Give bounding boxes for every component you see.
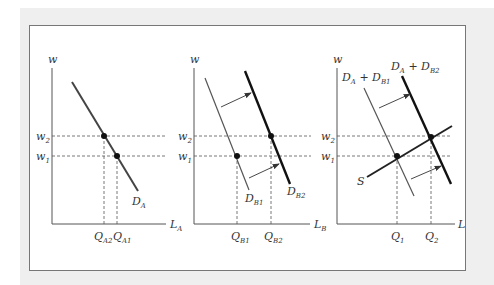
demand-label-total-b2: DA + DB2: [390, 60, 440, 75]
shift-arrow-lower: [249, 164, 279, 178]
demand-label-b1: DB1: [244, 192, 263, 207]
demand-curve-b2: [245, 71, 290, 184]
equilibrium-point-2: [428, 134, 434, 140]
w1-label: w1: [321, 150, 335, 165]
equilibrium-point-b2: [268, 133, 274, 139]
shift-arrow-upper: [221, 93, 251, 107]
demand-curve-total-b1: [364, 88, 414, 196]
demand-label-a: DA: [131, 195, 146, 210]
shift-arrow-upper: [379, 94, 410, 108]
x-axis-label: LA: [169, 218, 182, 233]
shift-arrow-lower: [411, 166, 441, 179]
demand-label-total-b1: DA + DB1: [341, 71, 391, 86]
labor-market-diagram: w LA w2 w1 DA QA2 QA1 w LB w2 w1 DB1: [0, 0, 494, 285]
w1-label: w1: [36, 150, 50, 165]
demand-curve-b1: [205, 78, 249, 190]
x-axis-label: LB: [313, 218, 326, 233]
supply-label: S: [357, 175, 365, 188]
qb2-label: QB2: [264, 230, 283, 245]
panel-market-a: w LA w2 w1 DA QA2 QA1: [36, 53, 182, 245]
qa2-label: QA2: [94, 230, 113, 245]
w1-label: w1: [178, 150, 192, 165]
w2-label: w2: [321, 130, 335, 145]
panel-market-b: w LB w2 w1 DB1 DB2 QB1 QB2: [178, 53, 326, 245]
panel-total-market: w L w2 w1 DA + DB1 DA + DB2 S Q1 Q2: [321, 53, 465, 245]
supply-curve: [367, 126, 452, 177]
y-axis-label: w: [190, 53, 200, 66]
y-axis-label: w: [333, 53, 343, 66]
equilibrium-point-b1: [234, 153, 240, 159]
w2-label: w2: [36, 130, 50, 145]
demand-label-b2: DB2: [286, 185, 306, 200]
qa1-label: QA1: [113, 230, 132, 245]
equilibrium-point-w1: [114, 153, 120, 159]
y-axis-label: w: [48, 53, 58, 66]
q1-label: Q1: [391, 230, 405, 245]
q2-label: Q2: [425, 230, 439, 245]
qb1-label: QB1: [231, 230, 250, 245]
x-axis-label: L: [457, 218, 465, 231]
equilibrium-point-w2: [101, 133, 107, 139]
equilibrium-point-1: [394, 153, 400, 159]
w2-label: w2: [178, 130, 192, 145]
